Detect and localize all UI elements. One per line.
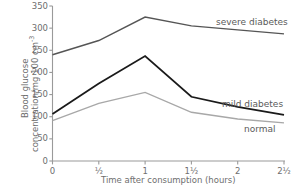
y-axis-title-line-1: Blood glucose — [21, 59, 30, 118]
chart-tick-marks — [49, 6, 284, 164]
series-label-normal: normal — [244, 125, 276, 134]
x-axis-title: Time after consumption (hours) — [98, 176, 238, 185]
x-axis-tick-label: 2 — [223, 167, 253, 176]
x-axis-tick-label: 1 — [130, 167, 160, 176]
x-axis-tick-label: 1½ — [176, 167, 206, 176]
series-label-severe-diabetes: severe diabetes — [216, 18, 288, 27]
x-axis-tick-label: 2½ — [269, 167, 297, 176]
y-axis-title-line-2: concentration/mg 100 cm-3 — [31, 36, 40, 152]
y-axis-title: Blood glucose concentration/mg 100 cm-3 — [0, 0, 34, 165]
x-axis-tick-label: 0 — [38, 167, 68, 176]
chart-axes — [53, 6, 286, 161]
x-axis-tick-label: ½ — [84, 167, 114, 176]
y-axis-title-line-2-text: concentration/mg 100 cm — [30, 42, 40, 152]
blood-glucose-line-chart: 050100150200250300350 0½11½22½ Blood glu… — [0, 0, 297, 187]
series-label-mild-diabetes: mild diabetes — [222, 100, 283, 109]
y-axis-title-superscript: -3 — [28, 36, 36, 42]
